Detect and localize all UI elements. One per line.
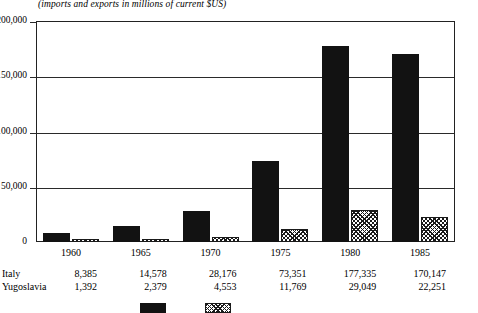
- y-tick-label: 0: [0, 236, 27, 246]
- bar-yugoslavia: [142, 239, 169, 242]
- bar-yugoslavia: [212, 237, 239, 242]
- y-tick-label: 50,000: [0, 181, 27, 191]
- table-cell: 22,251: [384, 281, 446, 292]
- bar-italy: [322, 46, 349, 242]
- table-cell: 8,385: [35, 268, 97, 279]
- legend-swatch-italy: [140, 303, 166, 313]
- y-tick-label: 200,000: [0, 15, 27, 25]
- bar-italy: [183, 211, 210, 242]
- bar-group: [176, 21, 246, 242]
- table-cell: 28,176: [175, 268, 237, 279]
- y-tick-label: 150,000: [0, 70, 27, 80]
- x-tick-label: 1960: [41, 247, 101, 258]
- table-cell: 14,578: [105, 268, 167, 279]
- table-cell: 73,351: [244, 268, 306, 279]
- table-cell: 11,769: [244, 281, 306, 292]
- bars-layer: [36, 21, 455, 242]
- x-tick-label: 1980: [320, 247, 380, 258]
- table-row-label: Italy: [2, 268, 20, 279]
- bar-yugoslavia: [281, 229, 308, 242]
- x-tick-label: 1970: [181, 247, 241, 258]
- bar-yugoslavia: [351, 210, 378, 242]
- bar-yugoslavia: [72, 239, 99, 242]
- y-tick-label: 100,000: [0, 126, 27, 136]
- table-cell: 4,553: [175, 281, 237, 292]
- bar-yugoslavia: [421, 217, 448, 242]
- table-cell: 177,335: [314, 268, 376, 279]
- legend-swatch-yugoslavia: [205, 303, 231, 313]
- table-cell: 1,392: [35, 281, 97, 292]
- bar-group: [106, 21, 176, 242]
- chart-subtitle: (imports and exports in millions of curr…: [38, 0, 226, 9]
- x-tick-label: 1985: [390, 247, 450, 258]
- table-cell: 2,379: [105, 281, 167, 292]
- table-cell: 170,147: [384, 268, 446, 279]
- x-tick-label: 1965: [111, 247, 171, 258]
- bar-italy: [43, 233, 70, 242]
- bar-group: [385, 21, 455, 242]
- table-cell: 29,049: [314, 281, 376, 292]
- bar-group: [246, 21, 316, 242]
- bar-group: [315, 21, 385, 242]
- x-tick-label: 1975: [250, 247, 310, 258]
- bar-italy: [113, 226, 140, 242]
- bar-italy: [252, 161, 279, 242]
- bar-italy: [392, 54, 419, 242]
- bar-group: [36, 21, 106, 242]
